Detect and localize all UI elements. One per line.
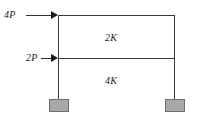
top-load-label: 4P bbox=[4, 9, 16, 20]
top-load-arrowhead bbox=[51, 11, 58, 19]
left-support bbox=[49, 99, 69, 112]
mid-load-label: 2P bbox=[26, 52, 38, 63]
middle-beam bbox=[58, 58, 175, 59]
top-beam bbox=[58, 15, 175, 16]
structural-frame-diagram: 4P 2P 2K 4K bbox=[0, 0, 198, 132]
left-column bbox=[58, 15, 59, 100]
top-load-arrow-shaft bbox=[26, 15, 53, 16]
upper-story-stiffness-label: 2K bbox=[105, 32, 117, 43]
mid-load-arrowhead bbox=[51, 54, 58, 62]
right-support bbox=[165, 99, 185, 112]
lower-story-stiffness-label: 4K bbox=[105, 75, 117, 86]
right-column bbox=[174, 15, 175, 100]
